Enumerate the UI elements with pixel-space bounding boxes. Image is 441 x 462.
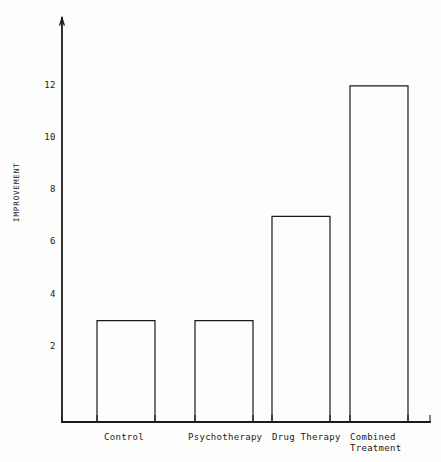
y-axis-tick-label: 4	[30, 290, 56, 300]
y-axis-tick-value: 8	[30, 185, 56, 194]
x-axis-category-label: Control	[104, 432, 144, 443]
y-axis-tick-value: 10	[30, 133, 56, 142]
y-axis-tick-value: 6	[30, 237, 56, 246]
y-axis-tick-label: 2	[30, 342, 56, 352]
y-axis-tick-label: 10	[30, 133, 56, 143]
y-axis-title: IMPROVEMENT	[13, 162, 21, 222]
plot-area: 24681012 IMPROVEMENT ControlPsychotherap…	[0, 0, 441, 462]
x-axis-category-label: Drug Therapy	[272, 432, 341, 443]
y-axis-tick-value: 4	[30, 290, 56, 299]
bar-chart-figure: 24681012 IMPROVEMENT ControlPsychotherap…	[0, 0, 441, 462]
bars-group	[97, 86, 408, 422]
y-axis-tick-label: 12	[30, 81, 56, 91]
x-axis-category-label: Psychotherapy	[188, 432, 262, 443]
bar[interactable]	[195, 321, 253, 422]
x-axis-category-label: CombinedTreatment	[350, 432, 401, 454]
bar[interactable]	[97, 321, 155, 422]
bar[interactable]	[272, 216, 330, 422]
category-label-line: Drug Therapy	[272, 432, 341, 443]
y-axis-tick-value: 2	[30, 342, 56, 351]
category-label-line: Combined	[350, 432, 401, 443]
bar[interactable]	[350, 86, 408, 422]
y-axis-tick-label: 8	[30, 185, 56, 195]
y-axis-tick-value: 12	[30, 81, 56, 90]
category-label-line: Treatment	[350, 443, 401, 454]
y-axis-tick-label: 6	[30, 237, 56, 247]
chart-canvas	[0, 0, 441, 462]
axes-group	[60, 18, 430, 422]
category-label-line: Psychotherapy	[188, 432, 262, 443]
x-axis-ticks	[62, 415, 430, 422]
category-label-line: Control	[104, 432, 144, 443]
